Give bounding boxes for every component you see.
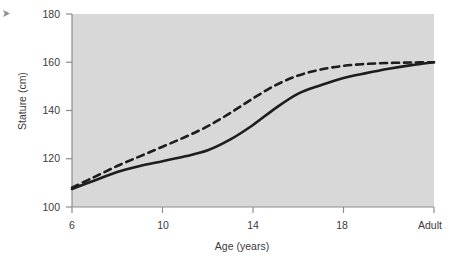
plot-background	[72, 14, 434, 207]
stature-growth-chart-figure: Stature (cm) Age (years) 180 160 140 120…	[0, 0, 462, 264]
plot-area	[0, 0, 462, 264]
